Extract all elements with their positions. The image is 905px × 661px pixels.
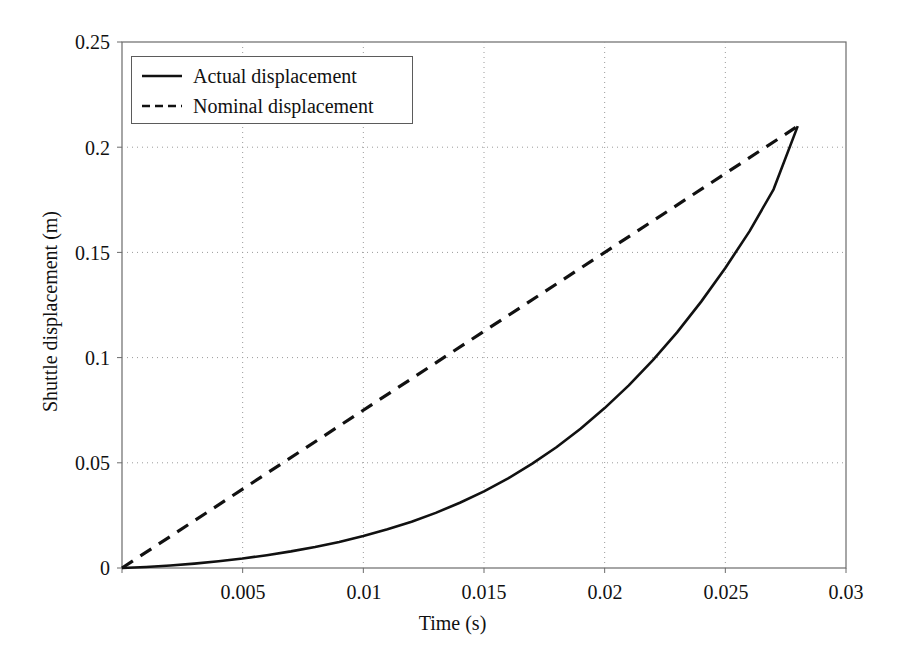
legend-item-actual: Actual displacement	[140, 61, 404, 91]
x-tick-label-0.02: 0.02	[545, 582, 665, 602]
y-tick-label-0.05: 0.05	[22, 453, 110, 473]
y-tick-label-0.15: 0.15	[22, 243, 110, 263]
y-tick-label-0.2: 0.2	[22, 138, 110, 158]
legend-dashed-line-icon	[140, 99, 184, 113]
x-tick-label-0.005: 0.005	[183, 582, 303, 602]
legend-label-nominal: Nominal displacement	[193, 96, 374, 116]
y-tick-label-0: 0	[22, 558, 110, 578]
x-axis-title: Time (s)	[0, 612, 905, 635]
legend: Actual displacement Nominal displacement	[131, 56, 413, 124]
legend-item-nominal: Nominal displacement	[140, 91, 404, 121]
x-tick-label-0.015: 0.015	[424, 582, 544, 602]
chart-figure: 0.25 0.2 0.15 0.1 0.05 0 0.005 0.01 0.01…	[0, 0, 905, 661]
x-tick-label-0.01: 0.01	[304, 582, 424, 602]
y-tick-label-0.1: 0.1	[22, 348, 110, 368]
legend-label-actual: Actual displacement	[193, 66, 357, 86]
legend-solid-line-icon	[140, 69, 184, 83]
y-tick-label-0.25: 0.25	[22, 32, 110, 52]
y-axis-title: Shuttle displacement (m)	[39, 162, 62, 462]
x-tick-label-0.03: 0.03	[786, 582, 905, 602]
x-tick-label-0.025: 0.025	[666, 582, 786, 602]
